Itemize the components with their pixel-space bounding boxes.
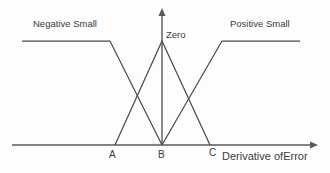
x-axis-arrowhead: [310, 142, 318, 149]
negative-small-label: Negative Small: [33, 19, 97, 29]
membership-function-figure: Negative Small Zero Positive Small A B C…: [0, 0, 330, 173]
zero-label: Zero: [166, 30, 186, 40]
x-axis-title: Derivative ofError: [222, 151, 308, 162]
y-axis-arrowhead: [159, 8, 166, 16]
positive-small-label: Positive Small: [230, 19, 290, 29]
x-tick-label-c: C: [209, 148, 216, 158]
x-tick-label-b: B: [158, 150, 165, 160]
x-tick-label-a: A: [109, 150, 116, 160]
positive-small-curve: [162, 41, 300, 145]
negative-small-curve: [22, 41, 162, 145]
